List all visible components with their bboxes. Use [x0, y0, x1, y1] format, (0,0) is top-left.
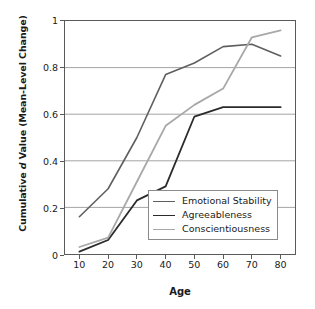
x-axis-title: Age: [64, 286, 296, 297]
x-tick-label: 10: [73, 259, 85, 270]
x-tick-mark: [136, 255, 137, 259]
x-tick-mark: [165, 255, 166, 259]
legend-item[interactable]: Agreeableness: [153, 208, 272, 222]
y-axis-title-prefix: Cumulative: [17, 169, 28, 232]
legend-item[interactable]: Emotional Stability: [153, 194, 272, 208]
x-tick-mark: [108, 255, 109, 259]
legend-swatch-line-icon: [153, 215, 175, 216]
chart-legend: Emotional StabilityAgreeablenessConscien…: [148, 190, 278, 240]
y-axis-title: Cumulative d Value (Mean-Level Change): [17, 0, 28, 254]
x-tick-mark: [223, 255, 224, 259]
x-tick-label: 40: [160, 259, 172, 270]
legend-item[interactable]: Conscientiousness: [153, 222, 272, 236]
chart-figure: Cumulative d Value (Mean-Level Change) 0…: [0, 0, 315, 309]
x-tick-label: 50: [188, 259, 200, 270]
legend-swatch-line-icon: [153, 229, 175, 230]
x-tick-label: 60: [217, 259, 229, 270]
x-tick-mark: [251, 255, 252, 259]
legend-label: Emotional Stability: [182, 196, 272, 206]
y-axis-title-italic-d: d: [17, 162, 28, 169]
x-tick-label: 70: [246, 259, 258, 270]
y-tick-mark: [60, 255, 64, 256]
x-tick-mark: [194, 255, 195, 259]
x-tick-label: 80: [275, 259, 287, 270]
y-axis-title-suffix: Value (Mean-Level Change): [17, 15, 28, 162]
x-tick-label: 30: [131, 259, 143, 270]
x-tick-mark: [280, 255, 281, 259]
x-tick-label: 20: [102, 259, 114, 270]
legend-label: Conscientiousness: [182, 224, 270, 234]
x-tick-mark: [79, 255, 80, 259]
legend-swatch-line-icon: [153, 201, 175, 202]
legend-label: Agreeableness: [182, 210, 252, 220]
